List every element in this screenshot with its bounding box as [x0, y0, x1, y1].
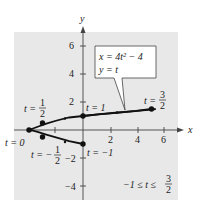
point-t-neg1	[80, 141, 85, 146]
label-t-neg-half: t = −	[31, 149, 52, 160]
domain-label-num: 3	[166, 173, 171, 184]
x-tick-4: 4	[135, 134, 140, 145]
label-t-1: t = 1	[86, 102, 106, 113]
y-axis-label: y	[79, 13, 85, 24]
x-tick-2: 2	[108, 134, 113, 145]
equation-y: y = t	[98, 64, 118, 75]
label-t-3half-num: 3	[160, 89, 165, 100]
y-tick-neg2: −2	[65, 153, 76, 164]
label-t-half: t =	[24, 103, 36, 114]
label-t-neg-half-num: 1	[55, 144, 60, 155]
y-tick-6: 6	[69, 40, 74, 51]
domain-label: −1 ≤ t ≤	[123, 179, 157, 190]
domain-label-den: 2	[166, 184, 171, 195]
label-t-0: t = 0	[5, 137, 25, 148]
x-axis-arrow-icon	[177, 128, 184, 133]
point-t-1	[80, 113, 85, 118]
y-tick-4: 4	[69, 68, 74, 79]
label-t-half-num: 1	[40, 97, 45, 108]
x-axis-label: x	[187, 124, 193, 135]
label-t-half-den: 2	[40, 108, 45, 119]
equation-x: x = 4t² − 4	[98, 51, 143, 62]
point-t-3half	[149, 106, 154, 111]
x-tick-6: 6	[161, 134, 166, 145]
y-tick-neg4: −4	[65, 181, 76, 192]
label-t-neg1: t = −1	[87, 147, 113, 158]
point-t-neg-half	[40, 134, 45, 139]
y-tick-2: 2	[69, 96, 74, 107]
label-t-neg-half-den: 2	[55, 155, 60, 166]
point-t-half	[40, 120, 45, 125]
point-t-0	[26, 127, 31, 132]
y-axis-arrow-icon	[81, 26, 86, 33]
parametric-plot: x y 2 4 6 6 4 2 −2 −4 x = 4t² − 4 y =	[0, 0, 203, 213]
label-t-3half: t =	[144, 95, 156, 106]
label-t-3half-den: 2	[160, 100, 165, 111]
